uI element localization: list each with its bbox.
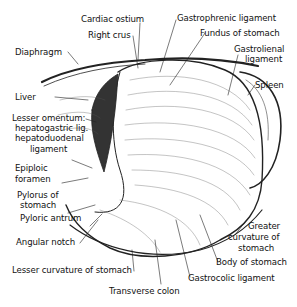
label-greater-curvature-1: Greater	[248, 221, 280, 231]
label-cardiac-ostium: Cardiac ostium	[81, 14, 144, 24]
label-body-of-stomach: Body of stomach	[216, 257, 287, 267]
label-gastrolienal-2: ligament	[245, 54, 282, 64]
label-lesser-curvature: Lesser curvature of stomach	[12, 265, 132, 275]
label-gastrophrenic-ligament: Gastrophrenic ligament	[177, 13, 276, 23]
label-greater-curvature-3: stomach	[238, 243, 274, 253]
label-lesser-omentum-4: ligament	[30, 144, 67, 154]
label-right-crus: Right crus	[88, 30, 131, 40]
label-angular-notch: Angular notch	[16, 237, 75, 247]
label-spleen: Spleen	[255, 80, 284, 90]
label-transverse-colon: Transverse colon	[109, 286, 180, 296]
label-diaphragm: Diaphragm	[15, 47, 62, 57]
label-fundus: Fundus of stomach	[200, 28, 280, 38]
label-epiploic-1: Epiploic	[15, 163, 48, 173]
label-gastrolienal-1: Gastrolienal	[234, 44, 284, 54]
label-pylorus-2: stomach	[20, 200, 56, 210]
label-pyloric-antrum: Pyloric antrum	[20, 213, 81, 223]
label-greater-curvature-2: curvature of	[228, 232, 279, 242]
label-liver: Liver	[15, 92, 36, 102]
label-lesser-omentum-2: hepatogastric lig.	[15, 123, 88, 133]
label-lesser-omentum-3: hepatoduodenal	[15, 133, 84, 143]
label-lesser-omentum-1: Lesser omentum:	[12, 113, 85, 123]
label-pylorus-1: Pylorus of	[17, 190, 58, 200]
label-epiploic-2: foramen	[15, 174, 51, 184]
label-gastrocolic-ligament: Gastrocolic ligament	[188, 273, 275, 283]
